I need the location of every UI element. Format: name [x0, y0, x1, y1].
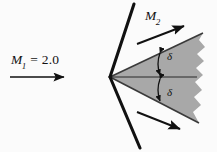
deflection-angle-label-lower: δ: [167, 86, 172, 98]
lower-downstream-flow-arrow: [137, 112, 180, 129]
upstream-mach-value: 2.0: [42, 52, 59, 67]
wedge-flow-figure: M1 = 2.0 M2 δ δ: [0, 0, 217, 152]
figure-canvas: [0, 0, 217, 152]
upper-oblique-shock-line: [110, 4, 134, 77]
upper-downstream-flow-arrow: [137, 26, 184, 44]
upstream-mach-symbol: M: [11, 52, 22, 67]
downstream-mach-label: M2: [145, 9, 161, 26]
downstream-mach-symbol: M: [145, 8, 156, 23]
upstream-mach-subscript: 1: [22, 61, 27, 71]
downstream-mach-subscript: 2: [156, 17, 161, 27]
upstream-mach-equals: =: [27, 52, 42, 67]
deflection-angle-label-upper: δ: [167, 50, 172, 62]
upstream-mach-label: M1 = 2.0: [11, 53, 59, 70]
